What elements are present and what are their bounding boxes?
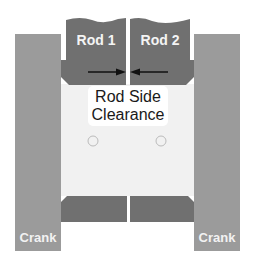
rod-2-cap <box>130 196 194 222</box>
annotation-line-1: Rod Side <box>88 88 168 106</box>
oil-hole-right-icon <box>156 136 166 146</box>
oil-hole-left-icon <box>88 136 98 146</box>
annotation-line-2: Clearance <box>88 106 168 124</box>
rod-2-label: Rod 2 <box>130 32 190 48</box>
rod-1-label: Rod 1 <box>66 32 126 48</box>
rod-side-clearance-label: Rod Side Clearance <box>88 86 168 126</box>
rod-1-cap <box>61 196 127 222</box>
rod-1: Rod 1 <box>66 18 126 58</box>
rod-shapes <box>0 0 256 266</box>
rod-2: Rod 2 <box>130 18 190 58</box>
